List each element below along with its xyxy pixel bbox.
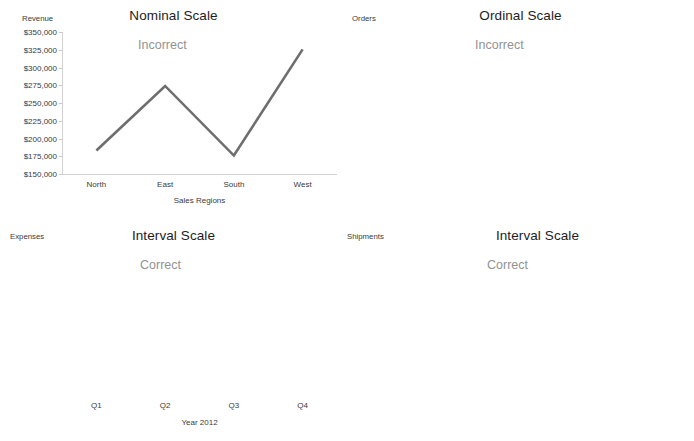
- series-layer: [0, 220, 347, 440]
- series-layer: [347, 220, 694, 440]
- chart-figure: Nominal ScaleIncorrectRevenue$150,000$17…: [0, 0, 694, 441]
- chart-panel-interval-scale-expenses: Interval ScaleCorrectExpenses$35,000$40,…: [0, 220, 347, 440]
- chart-panel-ordinal-scale: Ordinal ScaleIncorrectOrders304050607080…: [347, 0, 694, 220]
- chart-panel-nominal-scale: Nominal ScaleIncorrectRevenue$150,000$17…: [0, 0, 347, 220]
- chart-panel-interval-scale-shipments: Interval ScaleCorrectShipments1001502002…: [347, 220, 694, 440]
- series-layer: [0, 0, 347, 220]
- series-layer: [347, 0, 694, 220]
- series-line: [96, 49, 302, 155]
